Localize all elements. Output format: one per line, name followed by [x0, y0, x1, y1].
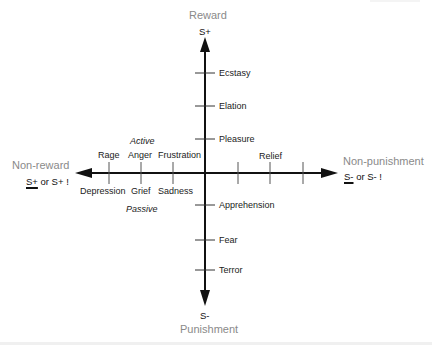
arrowhead-up-icon — [200, 37, 210, 52]
emotion-relief: Relief — [259, 152, 282, 161]
emotion-fear: Fear — [219, 236, 238, 245]
arrowhead-left-icon — [75, 168, 92, 178]
emotion-elation: Elation — [219, 102, 247, 111]
non-punishment-symbol: S- or S- ! — [344, 172, 382, 182]
emotion-frustration: Frustration — [158, 151, 201, 160]
non-punishment-label: Non-punishment — [343, 156, 424, 167]
emotion-depression: Depression — [80, 187, 126, 196]
emotion-pleasure: Pleasure — [219, 135, 255, 144]
emotion-grief: Grief — [131, 187, 151, 196]
emotion-anger: Anger — [128, 151, 152, 160]
active-label: Active — [130, 137, 155, 146]
non-reward-label: Non-reward — [12, 160, 69, 171]
reward-label: Reward — [189, 10, 227, 21]
passive-label: Passive — [126, 205, 158, 214]
punishment-label: Punishment — [180, 324, 238, 335]
arrowhead-right-icon — [321, 168, 338, 178]
emotion-rage: Rage — [98, 151, 120, 160]
non-reward-symbol: S+ or S+ ! — [26, 177, 69, 187]
top-edge-artifact — [370, 0, 420, 2]
emotion-ecstasy: Ecstasy — [219, 69, 251, 78]
non-punishment-symbol-rest: or S- ! — [354, 171, 383, 182]
non-reward-symbol-rest: or S+ ! — [38, 176, 69, 187]
emotion-terror: Terror — [219, 266, 243, 275]
s-minus-underlined: S- — [344, 171, 354, 182]
emotion-sadness: Sadness — [158, 187, 193, 196]
s-plus-top-symbol: S+ — [199, 27, 211, 37]
emotion-apprehension: Apprehension — [219, 201, 275, 210]
arrowhead-down-icon — [200, 290, 210, 306]
s-minus-bottom-symbol: S- — [200, 311, 210, 321]
s-plus-underlined: S+ — [26, 176, 38, 187]
